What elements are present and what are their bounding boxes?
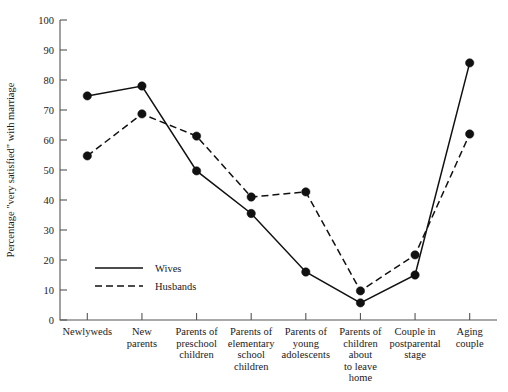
- series-line-wives: [87, 63, 469, 303]
- y-tick-label-100: 100: [38, 15, 54, 26]
- data-point-husbands-3: [247, 193, 255, 201]
- x-tick-label-3: Parents ofelementaryschoolchildren: [228, 326, 275, 372]
- y-tick-label-90: 90: [44, 45, 55, 56]
- y-tick-label-60: 60: [44, 135, 55, 146]
- data-point-wives-7: [465, 59, 473, 67]
- data-point-wives-4: [302, 268, 310, 276]
- data-point-wives-2: [192, 167, 200, 175]
- data-point-husbands-2: [192, 132, 200, 140]
- y-tick-label-80: 80: [44, 75, 55, 86]
- data-point-husbands-1: [138, 110, 146, 118]
- x-tick-label-7: Agingcouple: [456, 326, 484, 349]
- data-point-wives-3: [247, 209, 255, 217]
- data-point-wives-5: [356, 299, 364, 307]
- data-point-husbands-7: [465, 130, 473, 138]
- x-tick-label-6: Couple inpostparentalstage: [389, 326, 440, 360]
- data-point-wives-1: [138, 82, 146, 90]
- data-point-husbands-4: [302, 188, 310, 196]
- y-tick-label-40: 40: [44, 195, 55, 206]
- legend-label-husbands: Husbands: [155, 281, 196, 292]
- y-tick-label-20: 20: [44, 255, 55, 266]
- legend-label-wives: Wives: [155, 263, 181, 274]
- data-point-wives-6: [411, 271, 419, 279]
- y-tick-label-70: 70: [44, 105, 55, 116]
- y-tick-label-30: 30: [44, 225, 55, 236]
- x-tick-label-2: Parents ofpreschoolchildren: [175, 326, 218, 360]
- line-chart: 0102030405060708090100Percentage "very s…: [0, 0, 508, 392]
- x-tick-label-1: Newparents: [127, 326, 157, 349]
- x-tick-label-4: Parents ofyoungadolescents: [282, 326, 330, 360]
- chart-canvas: 0102030405060708090100Percentage "very s…: [0, 0, 508, 392]
- series-line-husbands: [87, 114, 469, 291]
- x-tick-label-0: Newlyweds: [63, 326, 113, 337]
- y-tick-label-50: 50: [44, 165, 55, 176]
- axis-lines: [60, 20, 497, 320]
- y-tick-label-0: 0: [49, 315, 54, 326]
- data-point-wives-0: [83, 92, 91, 100]
- data-point-husbands-5: [356, 287, 364, 295]
- data-point-husbands-0: [83, 152, 91, 160]
- data-point-husbands-6: [411, 251, 419, 259]
- x-tick-label-5: Parents ofchildrenaboutto leavehome: [339, 326, 382, 383]
- y-tick-label-10: 10: [44, 285, 55, 296]
- y-axis-title: Percentage "very satisfied" with marriag…: [5, 82, 16, 257]
